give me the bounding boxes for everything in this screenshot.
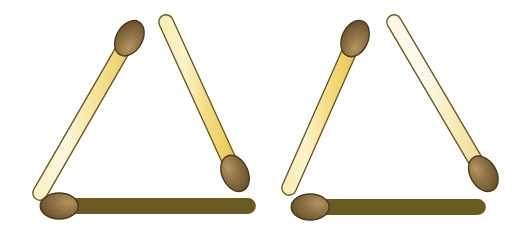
match-head [40,193,78,219]
match-head-texture [40,193,78,219]
match-head-texture [291,194,329,220]
match-head [291,194,329,220]
matchstick-illustration [0,0,525,235]
puzzle-canvas [0,0,525,235]
